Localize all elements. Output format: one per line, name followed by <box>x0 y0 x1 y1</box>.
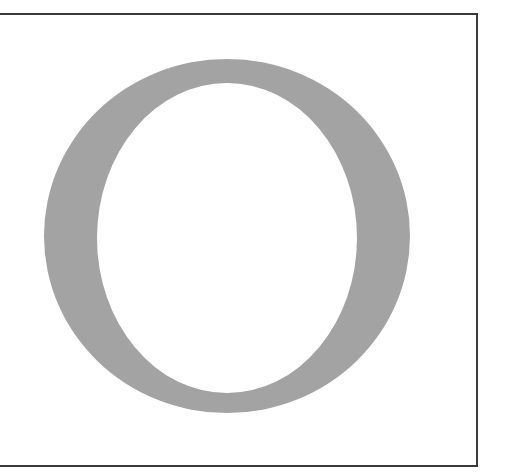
letter-o-glyph <box>0 0 505 476</box>
